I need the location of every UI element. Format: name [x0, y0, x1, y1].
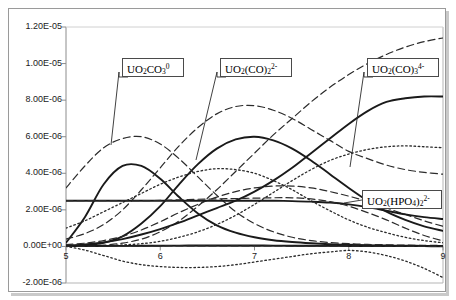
series-callout-anno-uo2co3-4: UO2(CO)34-: [367, 58, 439, 77]
y-axis-tick-label: 4.00E-06: [6, 167, 62, 177]
y-axis-tick-label: 6.00E-06: [6, 131, 62, 141]
series-callout-anno-uo2co3: UO2CO30: [122, 58, 184, 77]
x-axis-tick-label: 6: [148, 251, 172, 261]
y-axis-tick-label: 1.20E-05: [6, 21, 62, 31]
series-callout-anno-uo2co2: UO2(CO)22-: [220, 58, 292, 77]
series-callout-anno-uo2hpo4: UO2(HPO4)22-: [362, 190, 442, 209]
y-axis-tick-label: 2.00E-06: [6, 204, 62, 214]
x-axis-tick-label: 7: [243, 251, 267, 261]
x-axis-tick-label: 8: [337, 251, 361, 261]
x-axis-tick-label: 9: [431, 251, 455, 261]
x-axis-tick-label: 5: [54, 251, 78, 261]
y-axis-tick-label: -2.00E-06: [6, 277, 62, 287]
y-axis-tick-label: 1.00E-05: [6, 58, 62, 68]
y-axis-tick-label: 8.00E-06: [6, 94, 62, 104]
speciation-chart-figure: 1.20E-051.00E-058.00E-066.00E-064.00E-06…: [0, 0, 456, 300]
y-axis-tick-label: 0.00E+00: [6, 240, 62, 250]
